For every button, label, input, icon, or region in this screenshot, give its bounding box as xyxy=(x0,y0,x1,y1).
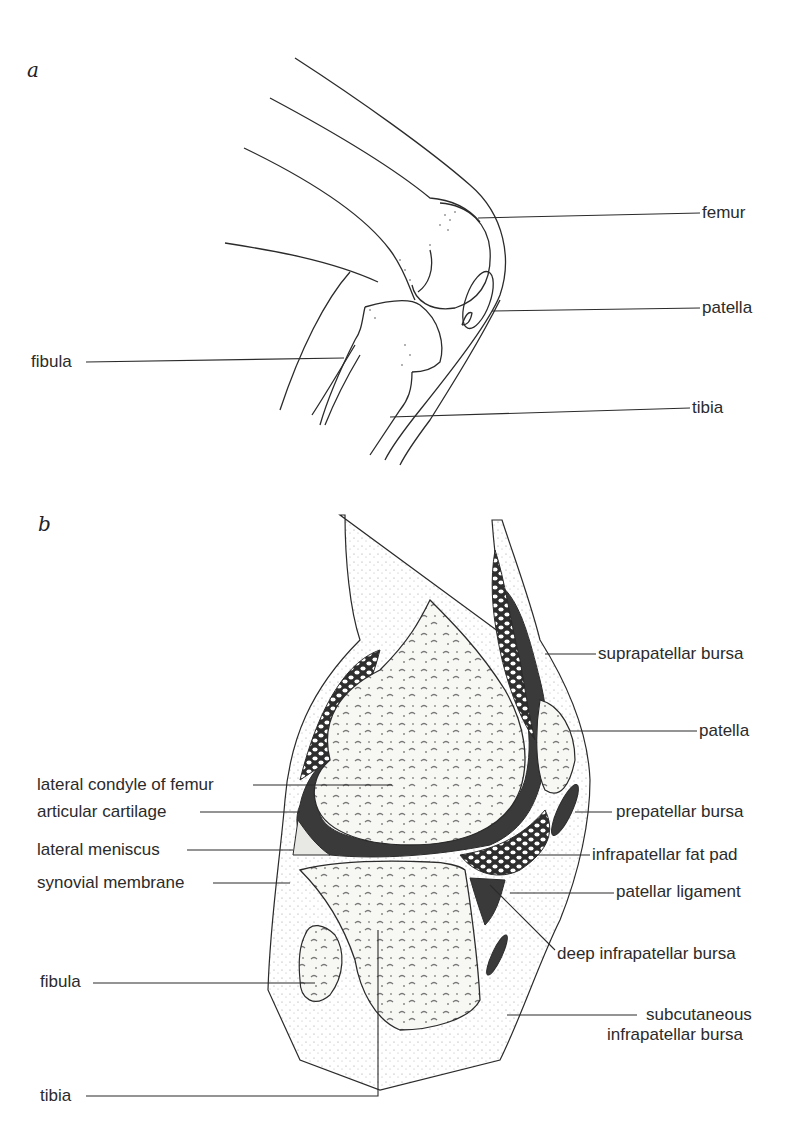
label-b-suprapatellar-bursa: suprapatellar bursa xyxy=(598,645,744,663)
label-b-infrapatellar-fat-pad: infrapatellar fat pad xyxy=(592,846,738,864)
label-b-tibia: tibia xyxy=(40,1087,71,1105)
label-b-patella: patella xyxy=(699,722,749,740)
label-a-patella: patella xyxy=(702,299,752,317)
label-a-femur: femur xyxy=(702,204,745,222)
label-b-prepatellar-bursa: prepatellar bursa xyxy=(616,803,744,821)
label-a-tibia: tibia xyxy=(692,399,723,417)
label-b-articular-cartilage: articular cartilage xyxy=(37,803,166,821)
label-b-fibula: fibula xyxy=(40,973,81,991)
label-a-fibula: fibula xyxy=(31,353,72,371)
label-b-lateral-condyle-of-femur: lateral condyle of femur xyxy=(37,776,214,794)
panel-a-drawing xyxy=(225,58,505,465)
label-b-synovial-membrane: synovial membrane xyxy=(37,874,184,892)
panel-a-leaders xyxy=(86,213,700,417)
label-b-lateral-meniscus: lateral meniscus xyxy=(37,841,160,859)
label-b-subcutaneous-infrapatellar-bursa-line1: subcutaneous xyxy=(646,1006,752,1024)
label-b-subcutaneous-infrapatellar-bursa-line2: infrapatellar bursa xyxy=(607,1026,743,1044)
label-b-deep-infrapatellar-bursa: deep infrapatellar bursa xyxy=(557,945,736,963)
label-b-patellar-ligament: patellar ligament xyxy=(616,883,741,901)
